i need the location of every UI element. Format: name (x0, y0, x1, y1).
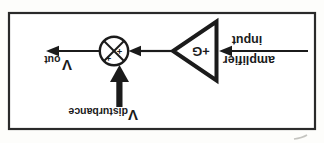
sum-plus-top-label: + (105, 53, 111, 64)
feedback-diagram: amplifier input +G + + V out V disturban… (0, 0, 324, 143)
vdisturbance-label-base: V (128, 107, 138, 124)
vout-label-subscript: out (44, 54, 61, 66)
gain-label: +G (192, 44, 210, 59)
rotated-figure-group: amplifier input +G + + V out V disturban… (9, 13, 315, 129)
scan-artifact-mark (294, 135, 307, 139)
disturbance-arrow-shaft (116, 81, 122, 107)
vdisturbance-label-subscript: disturbance (68, 106, 128, 118)
amplifier-label-line2: input (231, 33, 262, 47)
figure-border (9, 13, 315, 129)
amplifier-label-line1: amplifier (223, 53, 275, 67)
sum-plus-left-label: + (116, 46, 122, 57)
vout-label-base: V (62, 57, 72, 74)
